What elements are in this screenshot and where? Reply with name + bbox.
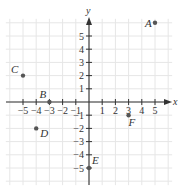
x-tick-label: 1 <box>100 105 105 116</box>
point-label: C <box>11 63 19 75</box>
point-dot-icon <box>87 166 91 170</box>
point-f: F <box>126 113 135 128</box>
point-dot-icon <box>153 21 157 25</box>
y-tick-label: 5 <box>79 31 84 42</box>
y-tick-label: 1 <box>79 83 84 94</box>
y-axis: y <box>85 5 92 185</box>
points: ABCDEF <box>11 17 157 170</box>
coordinate-plane: x y −5−4−3−2−112345 54321−1−2−3−4−5 ABCD… <box>0 0 180 192</box>
y-axis-label: y <box>85 5 91 16</box>
x-tick-label: −3 <box>44 105 55 116</box>
y-tick-label: 4 <box>79 44 84 55</box>
y-tick-label: −3 <box>73 136 84 147</box>
y-tick-label: 3 <box>79 57 84 68</box>
x-tick-label: −4 <box>31 105 42 116</box>
x-tick-label: 4 <box>139 105 144 116</box>
x-tick-label: −5 <box>18 105 29 116</box>
x-axis-label: x <box>172 96 178 107</box>
y-axis-arrow-icon <box>86 17 92 25</box>
point-label: B <box>39 88 46 100</box>
point-label: E <box>91 154 99 166</box>
y-tick-label: 2 <box>79 70 84 81</box>
point-label: F <box>128 116 136 128</box>
y-tick-label: −2 <box>73 123 84 134</box>
point-dot-icon <box>47 100 51 104</box>
y-tick-label: −4 <box>73 149 84 160</box>
x-tick-label: −2 <box>57 105 68 116</box>
y-tick-label: −5 <box>73 163 84 174</box>
point-dot-icon <box>34 126 38 130</box>
x-tick-label: 2 <box>113 105 118 116</box>
x-tick-label: 5 <box>153 105 158 116</box>
point-label: A <box>144 17 152 29</box>
point-label: D <box>39 127 48 139</box>
point-dot-icon <box>21 73 25 77</box>
y-tick-label: −1 <box>73 110 84 121</box>
